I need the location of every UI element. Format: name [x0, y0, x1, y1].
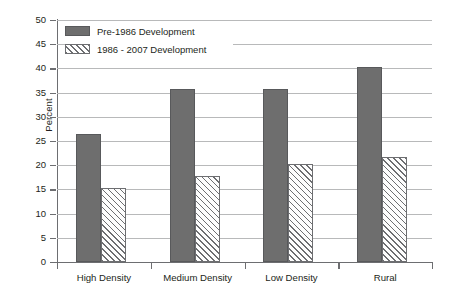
- y-axis-tick: [50, 44, 56, 45]
- y-axis-tick-label: 35: [16, 87, 46, 98]
- y-axis-tick-label: 25: [16, 135, 46, 146]
- bar-1986-2007: [101, 188, 126, 262]
- x-axis-category-label: Low Density: [245, 272, 339, 283]
- y-axis-tick: [50, 189, 56, 190]
- y-axis-tick-label: 10: [16, 208, 46, 219]
- y-axis-tick-label: 0: [16, 256, 46, 267]
- y-axis-tick-label: 15: [16, 183, 46, 194]
- y-axis-tick-label: 40: [16, 62, 46, 73]
- bar-pre-1986: [76, 134, 101, 262]
- chart-legend: Pre-1986 Development 1986 - 2007 Develop…: [65, 22, 233, 62]
- x-axis-tick: [151, 262, 152, 269]
- y-axis-tick-label: 50: [16, 14, 46, 25]
- bar-pre-1986: [170, 89, 195, 262]
- x-axis-category-label: Rural: [338, 272, 432, 283]
- y-axis-tick: [50, 117, 56, 118]
- y-axis-tick-label: 45: [16, 38, 46, 49]
- y-axis-tick: [50, 165, 56, 166]
- bar-chart: Percent 50454035302520151050 High Densit…: [0, 0, 449, 298]
- x-axis-category-label: Medium Density: [151, 272, 245, 283]
- y-axis-tick-label: 5: [16, 232, 46, 243]
- hatched-swatch: [65, 44, 90, 54]
- y-axis-tick-label: 20: [16, 159, 46, 170]
- legend-item-1986-2007: 1986 - 2007 Development: [65, 41, 206, 57]
- x-axis-tick: [245, 262, 246, 269]
- x-axis-tick: [57, 262, 58, 269]
- y-axis-tick: [50, 141, 56, 142]
- y-axis-tick: [50, 20, 56, 21]
- bar-group: [338, 20, 432, 262]
- y-axis-tick: [50, 238, 56, 239]
- bar-1986-2007: [288, 164, 313, 262]
- x-axis-tick: [338, 262, 339, 269]
- y-axis-tick: [50, 262, 56, 263]
- x-axis-tick: [432, 262, 433, 269]
- y-axis-tick: [50, 93, 56, 94]
- bar-group: [245, 20, 339, 262]
- bar-1986-2007: [382, 157, 407, 263]
- y-axis-tick: [50, 68, 56, 69]
- x-axis-category-label: High Density: [57, 272, 151, 283]
- bar-1986-2007: [195, 176, 220, 262]
- y-axis-tick-label: 30: [16, 111, 46, 122]
- legend-label: 1986 - 2007 Development: [97, 44, 206, 55]
- solid-gray-swatch: [65, 26, 90, 36]
- bar-pre-1986: [357, 67, 382, 262]
- legend-item-pre-1986: Pre-1986 Development: [65, 23, 195, 39]
- legend-label: Pre-1986 Development: [97, 26, 195, 37]
- bar-pre-1986: [263, 89, 288, 262]
- y-axis-tick: [50, 214, 56, 215]
